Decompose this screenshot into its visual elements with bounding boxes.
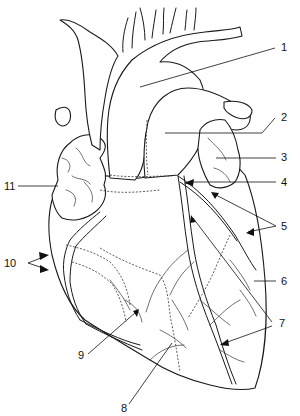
label-10: 10 <box>4 258 16 269</box>
label-9: 9 <box>78 350 84 361</box>
arrowhead-10a <box>39 252 49 260</box>
label-3: 3 <box>281 152 287 163</box>
brachiocephalic-trunk <box>123 12 136 52</box>
leader-2-tail <box>262 118 275 133</box>
arrowhead-10b <box>40 265 49 273</box>
label-4: 4 <box>281 177 287 188</box>
label-2: 2 <box>281 112 287 123</box>
label-8: 8 <box>121 403 127 414</box>
left-subclavian <box>163 8 176 34</box>
left-common-carotid <box>140 8 156 40</box>
label-5: 5 <box>281 221 287 232</box>
label-6: 6 <box>281 276 287 287</box>
vessel-branches <box>185 8 196 30</box>
heart-diagram <box>0 0 300 416</box>
label-11: 11 <box>4 181 15 192</box>
label-7: 7 <box>279 318 285 329</box>
right-pulmonary-vessel <box>55 107 70 126</box>
label-1: 1 <box>281 42 287 53</box>
